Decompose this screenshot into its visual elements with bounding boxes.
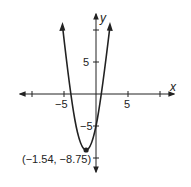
y-axis-label: y	[99, 11, 107, 25]
y-tick-label-neg5: −5	[80, 120, 93, 132]
x-tick-label-neg5: −5	[55, 98, 68, 110]
y-tick-label-5: 5	[83, 56, 89, 68]
vertex-dot	[84, 147, 89, 152]
parabola-chart: x y −5 5 5 −5 (−1.54, −8.75)	[0, 0, 191, 187]
vertex-label: (−1.54, −8.75)	[22, 153, 91, 165]
curve-arrow-right-icon	[107, 22, 113, 31]
curve-arrow-left-icon	[59, 22, 65, 31]
x-axis-label: x	[169, 80, 177, 94]
x-tick-label-5: 5	[124, 98, 130, 110]
